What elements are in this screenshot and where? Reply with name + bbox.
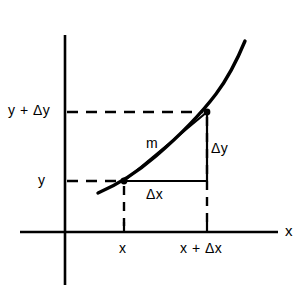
slope-label: m (146, 136, 158, 150)
x-tick-label: x (119, 241, 127, 255)
point-marker-lower (121, 178, 128, 185)
x-plus-delta-x-tick-label: x + Δx (180, 241, 222, 255)
delta-y-label: Δy (211, 141, 228, 155)
y-upper-label: y + Δy (8, 103, 50, 117)
delta-x-label: Δx (146, 187, 163, 201)
derivative-diagram: y + Δy y m Δy Δx x x + Δx x (0, 0, 303, 296)
x-axis-label: x (285, 223, 293, 238)
function-curve (98, 41, 245, 193)
point-marker-upper (204, 109, 211, 116)
y-lower-label: y (38, 173, 46, 187)
